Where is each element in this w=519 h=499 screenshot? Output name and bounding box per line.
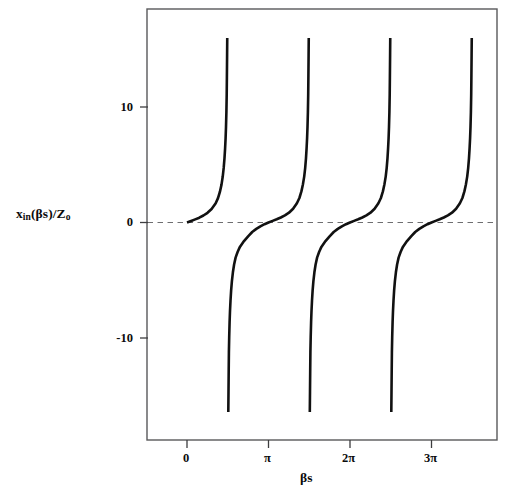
x-tick-label-0: 0 bbox=[183, 452, 189, 465]
plot-frame bbox=[147, 9, 497, 440]
y-tick-label-10: 10 bbox=[108, 101, 133, 114]
x-axis-ticks bbox=[187, 440, 432, 448]
x-tick-label-2pi: 2π bbox=[342, 452, 355, 465]
figure-container: xin(βs)/Zo βs 10 0 -10 0 π 2π 3π bbox=[0, 0, 519, 499]
x-tick-label-3pi: 3π bbox=[424, 452, 437, 465]
chart-canvas bbox=[0, 0, 519, 499]
y-tick-label-0: 0 bbox=[108, 216, 133, 229]
x-axis-label: βs bbox=[300, 471, 313, 485]
y-tick-label-neg10: -10 bbox=[104, 332, 133, 345]
y-axis-label: xin(βs)/Zo bbox=[16, 207, 71, 223]
y-axis-label-mid: (βs)/Z bbox=[31, 206, 66, 221]
y-axis-label-sub-in: in bbox=[23, 212, 31, 222]
y-axis-label-sub-o: o bbox=[66, 212, 71, 222]
x-tick-label-pi: π bbox=[264, 452, 271, 465]
y-axis-label-prefix: x bbox=[16, 206, 23, 221]
